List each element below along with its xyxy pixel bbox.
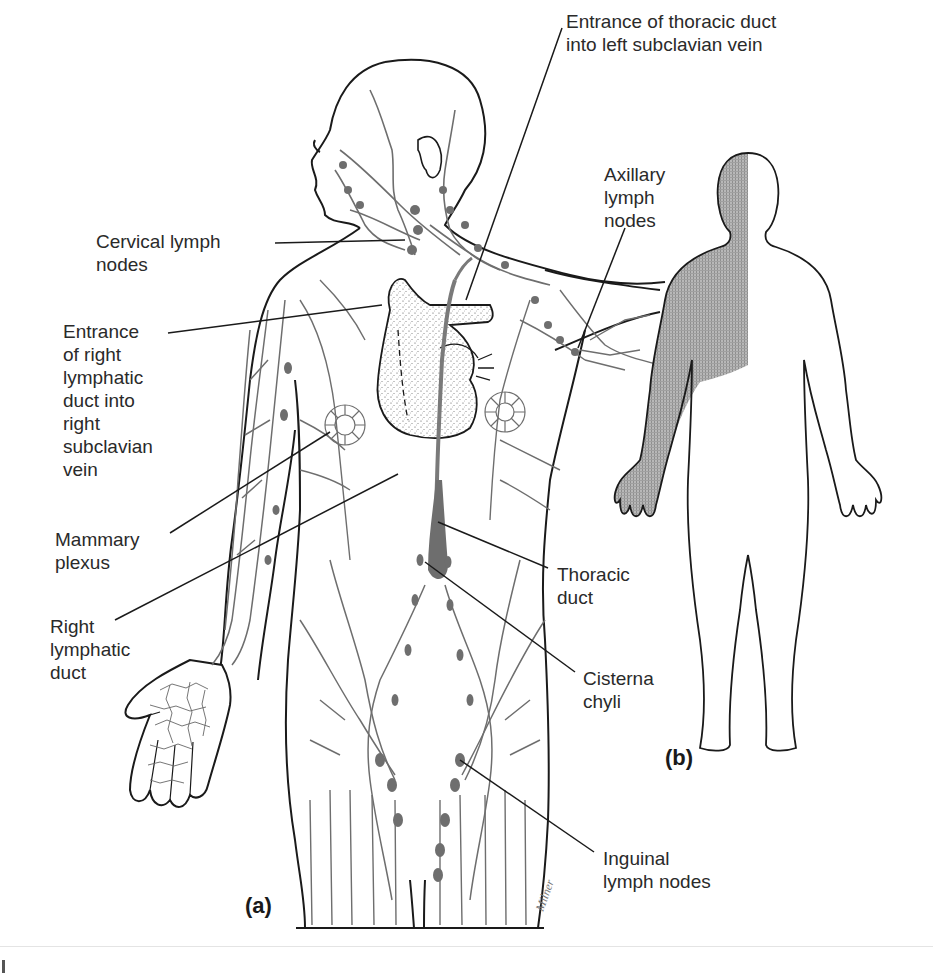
artist-signature: Milner (532, 877, 557, 914)
label-cisterna-chyli: Cisterna chyli (583, 667, 654, 713)
right-hand (125, 660, 230, 807)
label-thoracic-duct: Thoracic duct (557, 563, 630, 609)
abdomen-lymph-vessels (300, 560, 545, 900)
heart (377, 279, 494, 438)
inguinal-nodes (375, 753, 465, 882)
label-axillary-lymph-nodes: Axillary lymph nodes (604, 163, 665, 232)
page-edge-mark (2, 960, 5, 973)
leg-lymph-vessels (310, 790, 526, 925)
label-right-lymphatic-duct-entrance: Entrance of right lymphatic duct into ri… (63, 320, 153, 481)
arm-lymph-vessels (212, 300, 285, 665)
panel-b-body (615, 153, 882, 751)
label-mammary-plexus: Mammary plexus (55, 528, 139, 574)
anatomy-illustration: Milner (0, 0, 933, 973)
label-cervical-lymph-nodes: Cervical lymph nodes (96, 230, 221, 276)
label-right-lymphatic-duct: Right lymphatic duct (50, 615, 130, 684)
label-inguinal-lymph-nodes: Inguinal lymph nodes (603, 847, 711, 893)
panel-a-tag: (a) (245, 893, 272, 919)
label-thoracic-duct-entrance: Entrance of thoracic duct into left subc… (566, 10, 776, 56)
panel-b-tag: (b) (665, 745, 693, 771)
page-divider (0, 946, 933, 947)
lymphatic-system-figure: Milner Entrance of thoracic duct into le… (0, 0, 933, 973)
